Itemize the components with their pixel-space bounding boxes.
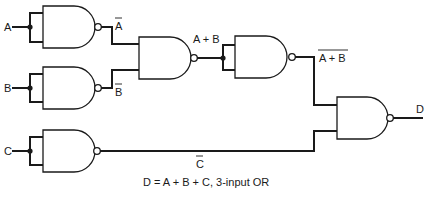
input-label-b: B	[4, 82, 11, 94]
svg-text:B: B	[115, 86, 122, 98]
signal-label-a-or-b: A + B	[193, 33, 220, 45]
not-a-or-b-wire	[295, 57, 337, 105]
signal-label-not-a-or-b: A + B	[318, 50, 348, 64]
nand-gate-b	[12, 67, 101, 109]
junction-dot	[27, 148, 32, 153]
c-bar-wire	[100, 131, 337, 151]
junction-dot	[220, 55, 225, 60]
signal-label-b-bar: B	[115, 84, 122, 98]
nand-gate-body	[337, 97, 388, 139]
nand-gate-inv-ab	[220, 36, 295, 78]
inversion-bubble	[94, 148, 101, 155]
nand-gate-body	[43, 67, 95, 109]
junction-dot	[27, 24, 32, 29]
inversion-bubble	[289, 54, 296, 61]
caption: D = A + B + C, 3-input OR	[143, 176, 269, 188]
nand-gate-body	[235, 36, 287, 78]
svg-text:A: A	[115, 20, 123, 32]
nand-gate-a	[12, 6, 101, 48]
signal-label-a-bar: A	[115, 18, 123, 32]
junction-dot	[27, 85, 32, 90]
input-label-c: C	[4, 145, 12, 157]
nand-gate-c	[12, 130, 100, 172]
inversion-bubble	[95, 85, 102, 92]
svg-text:C: C	[196, 158, 204, 170]
output-label-d: D	[416, 103, 424, 115]
nand-gate-body	[43, 6, 95, 48]
inversion-bubble	[191, 55, 198, 62]
inversion-bubble	[387, 115, 394, 122]
logic-circuit-diagram: A B C A B A + B A + B C D D = A + B + C,…	[0, 0, 433, 203]
signal-label-c-bar: C	[196, 156, 204, 170]
nand-gate-body	[43, 130, 95, 172]
nand-gate-body	[139, 37, 191, 79]
inversion-bubble	[95, 24, 102, 31]
nand-gate-output	[337, 97, 423, 139]
input-label-a: A	[4, 21, 12, 33]
svg-text:A + B: A + B	[319, 52, 346, 64]
nand-gate-ab	[139, 37, 197, 79]
